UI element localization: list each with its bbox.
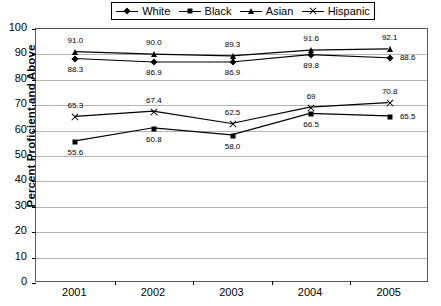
data-point-hispanic-2005 (385, 99, 394, 108)
legend-symbol-black (179, 6, 201, 17)
data-point-asian-2001 (72, 49, 78, 55)
data-label-asian-2005: 92.1 (382, 34, 398, 42)
data-label-asian-2001: 91.0 (68, 37, 84, 45)
data-label-hispanic-2001: 65.3 (68, 102, 84, 110)
y-axis-tick-label: 40 (0, 174, 27, 185)
data-label-black-2005: 65.5 (400, 113, 416, 121)
legend-item-black[interactable]: Black (177, 6, 234, 17)
y-axis-tick-label: 20 (0, 225, 27, 236)
data-label-black-2003: 58.0 (225, 143, 241, 151)
data-label-black-2004: 66.5 (303, 121, 319, 129)
data-label-white-2002: 86.9 (146, 69, 162, 77)
data-point-hispanic-2001 (71, 113, 80, 122)
legend-symbol-hispanic (302, 6, 324, 17)
data-label-white-2005: 88.6 (400, 54, 416, 62)
legend-symbol-asian (240, 6, 262, 17)
data-point-asian-2004 (308, 47, 314, 53)
series-lines (36, 29, 427, 281)
data-label-hispanic-2003: 62.5 (225, 109, 241, 117)
legend-label: White (142, 6, 170, 17)
x-axis-tick-label: 2002 (123, 287, 183, 298)
data-label-black-2002: 60.8 (146, 136, 162, 144)
x-axis-tick (193, 281, 194, 285)
legend-item-white[interactable]: White (114, 6, 172, 17)
y-axis-tick (32, 283, 36, 284)
x-axis-tick-label: 2004 (280, 287, 340, 298)
legend-item-asian[interactable]: Asian (238, 6, 296, 17)
data-label-asian-2004: 91.6 (303, 35, 319, 43)
y-axis-tick-label: 50 (0, 149, 27, 160)
legend-label: Black (205, 6, 232, 17)
data-label-asian-2003: 89.3 (225, 41, 241, 49)
y-axis-tick-label: 10 (0, 251, 27, 262)
data-point-black-2001 (73, 139, 78, 144)
data-point-asian-2002 (151, 51, 157, 57)
data-label-hispanic-2002: 67.4 (146, 97, 162, 105)
triangle-marker-icon (248, 8, 254, 14)
x-marker-icon (308, 6, 317, 15)
data-label-hispanic-2004: 69 (307, 93, 316, 101)
x-axis-tick (272, 281, 273, 285)
y-axis-tick-label: 70 (0, 98, 27, 109)
y-axis-tick-label: 100 (0, 22, 27, 33)
data-label-asian-2002: 90.0 (146, 39, 162, 47)
data-label-white-2001: 88.3 (68, 66, 84, 74)
x-axis-tick (115, 281, 116, 285)
square-marker-icon (187, 8, 192, 13)
data-point-black-2003 (230, 133, 235, 138)
data-label-black-2001: 55.6 (68, 149, 84, 157)
x-axis-tick-label: 2003 (202, 287, 262, 298)
line-chart: WhiteBlackAsianHispanic Percent Proficie… (0, 0, 441, 306)
y-axis-tick-label: 60 (0, 124, 27, 135)
y-axis-tick-label: 0 (0, 276, 27, 287)
data-point-hispanic-2002 (149, 107, 158, 116)
x-axis-tick-label: 2001 (44, 287, 104, 298)
data-label-white-2004: 89.8 (303, 62, 319, 70)
plot-area: 88.386.986.989.888.655.660.858.066.565.5… (35, 28, 428, 282)
y-axis-tick-label: 30 (0, 200, 27, 211)
legend-item-hispanic[interactable]: Hispanic (300, 6, 372, 17)
data-point-asian-2003 (230, 53, 236, 59)
diamond-marker-icon (124, 7, 131, 14)
data-point-asian-2005 (387, 46, 393, 52)
data-point-black-2002 (151, 126, 156, 131)
data-point-black-2004 (309, 112, 314, 117)
data-point-hispanic-2004 (307, 103, 316, 112)
legend-label: Asian (266, 6, 294, 17)
y-axis-tick-label: 80 (0, 73, 27, 84)
data-point-black-2005 (387, 114, 392, 119)
data-label-hispanic-2005: 70.8 (382, 88, 398, 96)
legend-label: Hispanic (328, 6, 370, 17)
data-point-hispanic-2003 (228, 120, 237, 129)
data-label-white-2003: 86.9 (225, 69, 241, 77)
chart-legend: WhiteBlackAsianHispanic (111, 2, 375, 20)
x-axis-tick-label: 2005 (359, 287, 419, 298)
y-axis-tick-label: 90 (0, 47, 27, 58)
legend-symbol-white (116, 6, 138, 17)
x-axis-tick (350, 281, 351, 285)
